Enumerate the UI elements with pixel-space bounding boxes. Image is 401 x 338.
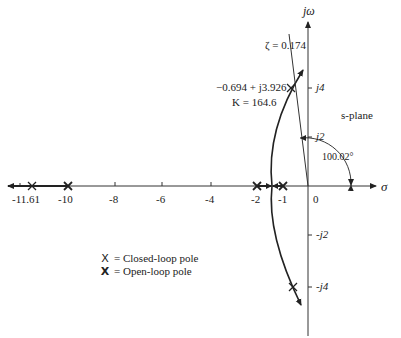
- open-loop-pole-marker-icon: X: [100, 265, 110, 278]
- angle-label: 100.02°: [322, 152, 354, 162]
- tick-minus-6: -6: [156, 194, 165, 205]
- tick-j4: j4: [316, 82, 325, 93]
- tick-0: 0: [313, 194, 319, 205]
- tick-minus-11-61: -11.61: [12, 194, 40, 205]
- pole-lower: [289, 283, 297, 291]
- tick-minus-j2: -j2: [316, 229, 328, 240]
- legend: X = Closed-loop pole X = Open-loop pole: [100, 252, 198, 278]
- closed-loop-pole-marker-icon: X: [100, 252, 110, 265]
- root-locus-plot: [0, 0, 401, 338]
- tick-j2: j2: [316, 131, 325, 142]
- legend-label: = Open-loop pole: [114, 265, 192, 278]
- gain-label: K = 164.6: [232, 97, 276, 108]
- pole-coordinate-label: −0.694 + j3.926: [216, 82, 286, 93]
- tick-minus-1: -1: [278, 194, 287, 205]
- legend-item-closed-loop: X = Closed-loop pole: [100, 252, 198, 265]
- tick-minus-10: -10: [58, 194, 73, 205]
- tick-minus-j4: -j4: [316, 281, 328, 292]
- imaginary-axis-label: jω: [303, 5, 315, 17]
- s-plane-label: s-plane: [341, 110, 373, 121]
- legend-item-open-loop: X = Open-loop pole: [100, 265, 198, 278]
- imaginary-axis-ticks: [308, 88, 312, 287]
- zeta-label: ζ = 0.174: [265, 40, 306, 51]
- tick-minus-4: -4: [205, 194, 214, 205]
- legend-label: = Closed-loop pole: [114, 252, 198, 265]
- real-axis-label: σ: [381, 180, 387, 193]
- damping-ratio-line: [289, 34, 308, 186]
- tick-minus-2: -2: [251, 194, 260, 205]
- tick-minus-8: -8: [109, 194, 118, 205]
